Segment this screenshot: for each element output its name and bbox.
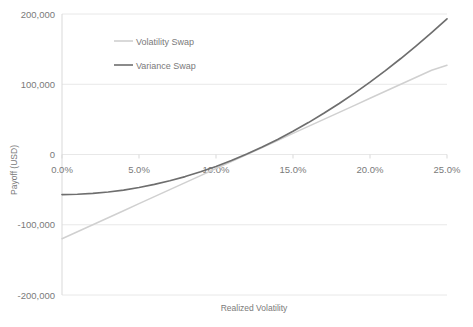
chart-container: 200,000100,0000-100,000-200,000 0.0%5.0%… xyxy=(0,0,473,327)
x-tick-label-3: 15.0% xyxy=(280,164,307,175)
y-tick-label-1: 100,000 xyxy=(21,79,55,90)
payoff-chart: 200,000100,0000-100,000-200,000 0.0%5.0%… xyxy=(0,0,473,327)
y-tick-label-0: 200,000 xyxy=(21,9,55,20)
x-tick-label-0: 0.0% xyxy=(51,164,73,175)
x-tick-label-1: 5.0% xyxy=(128,164,150,175)
y-tick-label-4: -200,000 xyxy=(17,290,55,301)
x-tick-label-5: 25.0% xyxy=(434,164,461,175)
legend-label-variance-swap: Variance Swap xyxy=(136,61,196,71)
y-tick-label-3: -100,000 xyxy=(17,219,55,230)
legend-label-volatility-swap: Volatility Swap xyxy=(136,37,194,47)
x-axis-title: Realized Volatility xyxy=(221,303,288,313)
y-axis-title: Payoff (USD) xyxy=(9,145,19,195)
x-tick-label-4: 20.0% xyxy=(357,164,384,175)
y-tick-label-2: 0 xyxy=(50,149,55,160)
